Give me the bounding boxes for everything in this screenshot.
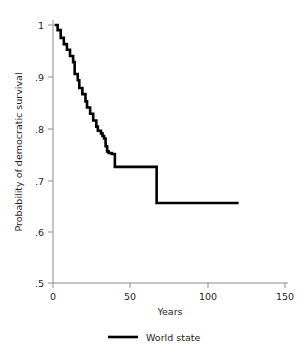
x-tick-label-50: 50	[124, 291, 136, 302]
y-tick-label-06: .6	[35, 227, 44, 238]
x-axis-ticks	[53, 283, 285, 288]
x-tick-label-100: 100	[199, 291, 217, 302]
survival-chart-figure: 1 .9 .8 .7 .6 .5 0 50 100 150 Years Prob…	[0, 0, 308, 356]
x-tick-label-0: 0	[50, 291, 56, 302]
survival-curve-world-state	[55, 25, 239, 203]
y-tick-label-08: .8	[35, 124, 44, 135]
x-tick-label-150: 150	[276, 291, 294, 302]
y-axis-title: Probability of democratic survival	[13, 72, 24, 231]
x-axis-title: Years	[156, 306, 182, 317]
y-axis-ticks	[48, 25, 53, 283]
chart-legend: World state	[108, 332, 200, 343]
y-tick-label-09: .9	[35, 72, 44, 83]
y-tick-label-1: 1	[38, 20, 44, 31]
y-tick-label-07: .7	[35, 176, 44, 187]
y-tick-label-05: .5	[35, 278, 44, 289]
legend-label-world-state: World state	[146, 332, 200, 343]
chart-canvas: 1 .9 .8 .7 .6 .5 0 50 100 150 Years Prob…	[0, 0, 308, 356]
